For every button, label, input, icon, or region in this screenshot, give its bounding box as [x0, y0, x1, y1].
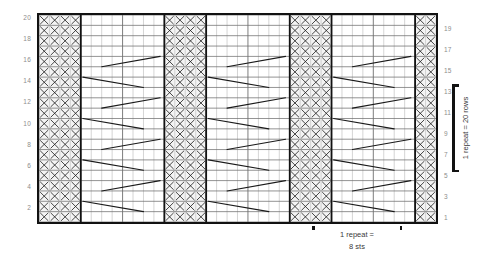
- repeat-rows-label-line1: 1 repeat =: [461, 125, 470, 159]
- repeat-rows-label: 1 repeat = 20 rows: [461, 84, 481, 172]
- row-label-right-19: 19: [444, 24, 452, 35]
- travelling-stitch-line: [102, 181, 160, 191]
- travelling-stitch-line: [227, 139, 286, 149]
- repeat-rows-bracket: 1 repeat = 20 rows: [452, 84, 498, 172]
- row-label-right-1: 1: [444, 213, 448, 224]
- travelling-stitch-line: [83, 160, 144, 170]
- row-label-left-20: 20: [23, 13, 31, 24]
- travelling-stitch-line: [83, 77, 144, 87]
- travelling-stitch-line: [227, 181, 286, 191]
- row-label-left-4: 4: [27, 182, 31, 193]
- row-numbers-left: 2018161412108642: [0, 13, 34, 224]
- row-label-right-3: 3: [444, 192, 448, 203]
- repeat-sts-label-line2: 8 sts: [312, 242, 402, 251]
- row-label-right-9: 9: [444, 129, 448, 140]
- row-label-right-7: 7: [444, 150, 448, 161]
- chart-frame: [37, 13, 438, 224]
- travelling-stitch-line: [208, 201, 269, 211]
- row-label-left-6: 6: [27, 161, 31, 172]
- bracket-tip-bottom: [452, 170, 459, 173]
- row-label-left-16: 16: [23, 55, 31, 66]
- travelling-stitch-line: [334, 160, 395, 170]
- stitch-chart-diagram: 2018161412108642 191715131197531 1 repea…: [0, 0, 500, 261]
- row-label-left-14: 14: [23, 76, 31, 87]
- repeat-rows-label-line2: 20 rows: [461, 97, 470, 123]
- chart-grid: [39, 15, 436, 222]
- row-label-left-8: 8: [27, 140, 31, 151]
- travelling-stitch-line: [334, 201, 395, 211]
- row-label-right-5: 5: [444, 171, 448, 182]
- row-label-left-10: 10: [23, 119, 31, 130]
- travelling-stitch-line: [208, 160, 269, 170]
- travelling-stitch-line: [352, 139, 411, 149]
- travelling-stitch-line: [208, 77, 269, 87]
- row-label-right-17: 17: [444, 45, 452, 56]
- travelling-stitch-line: [102, 139, 160, 149]
- travelling-stitch-line: [102, 98, 160, 108]
- travelling-stitch-line: [352, 181, 411, 191]
- row-label-right-11: 11: [444, 108, 451, 119]
- bracket-tip-top: [452, 84, 459, 87]
- row-label-left-12: 12: [23, 97, 31, 108]
- repeat-sts-label-line1: 1 repeat =: [312, 230, 402, 239]
- travelling-stitch-line: [208, 119, 269, 129]
- travelling-stitch-line: [227, 56, 286, 66]
- travelling-stitch-line: [102, 56, 160, 66]
- travelling-stitch-line: [352, 56, 411, 66]
- bracket-bar-vertical: [452, 84, 455, 172]
- row-label-left-2: 2: [27, 203, 31, 214]
- travelling-stitch-line: [83, 119, 144, 129]
- travelling-stitch-line: [83, 201, 144, 211]
- travelling-stitch-line: [334, 119, 395, 129]
- travelling-stitch-line: [227, 98, 286, 108]
- row-label-left-18: 18: [23, 34, 31, 45]
- repeat-sts-bracket: 1 repeat = 8 sts: [312, 224, 402, 258]
- travelling-stitch-line: [352, 98, 411, 108]
- row-label-right-15: 15: [444, 66, 452, 77]
- row-label-right-13: 13: [444, 87, 452, 98]
- travelling-stitch-line: [334, 77, 395, 87]
